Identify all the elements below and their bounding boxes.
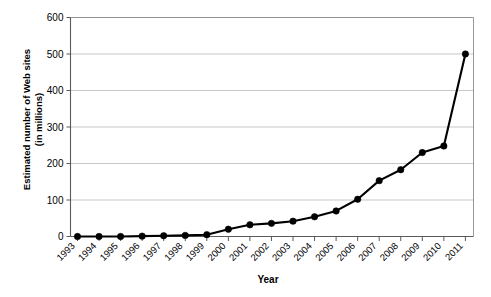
data-point-marker [290,218,296,224]
data-point-marker [419,149,425,155]
data-point-marker [311,214,317,220]
x-tick-label: 2003 [270,240,293,263]
y-tick-label: 0 [58,231,64,242]
x-tick-label: 2007 [356,240,379,263]
data-point-marker [204,231,210,237]
data-point-marker [161,233,167,239]
data-point-marker [462,51,468,57]
data-point-marker [117,233,123,239]
data-point-marker [182,232,188,238]
y-axis-ticks: 0100200300400500600 [47,12,71,242]
data-point-marker [74,233,80,239]
x-tick-label: 2001 [227,240,250,263]
data-point-marker [376,177,382,183]
x-tick-label: 2010 [421,240,444,263]
x-tick-label: 2004 [291,240,314,263]
y-tick-label: 300 [47,122,64,133]
plot-area: 0100200300400500600 19931994199519961997… [0,0,491,297]
x-tick-label: 1998 [162,240,185,263]
x-tick-label: 2009 [399,240,422,263]
data-point-marker [225,226,231,232]
data-point-marker [354,196,360,202]
x-tick-label: 2000 [205,240,228,263]
data-point-marker [333,208,339,214]
x-tick-label: 2005 [313,240,336,263]
y-tick-label: 500 [47,49,64,60]
x-tick-label: 1997 [140,240,163,263]
x-axis-ticks: 1993199419951996199719981999200020012002… [54,237,465,263]
x-tick-label: 2006 [334,240,357,263]
y-tick-label: 200 [47,158,64,169]
x-tick-label: 1995 [97,240,120,263]
x-tick-label: 2008 [377,240,400,263]
data-point-marker [441,143,447,149]
x-tick-label: 1999 [183,240,206,263]
x-tick-label: 2002 [248,240,271,263]
x-tick-label: 1994 [76,240,99,263]
data-point-marker [247,222,253,228]
data-series-websites [74,51,468,240]
y-tick-label: 600 [47,12,64,23]
gridlines [71,18,474,201]
y-tick-label: 400 [47,85,64,96]
data-point-marker [96,233,102,239]
x-tick-label: 2011 [443,240,465,262]
x-tick-label: 1996 [119,240,142,263]
data-point-marker [398,167,404,173]
data-point-marker [268,220,274,226]
x-tick-label: 1993 [54,240,77,263]
data-point-marker [139,233,145,239]
y-tick-label: 100 [47,195,64,206]
series-line [78,54,466,237]
chart-figure: Estimated number of Web sites (in millio… [0,0,491,297]
